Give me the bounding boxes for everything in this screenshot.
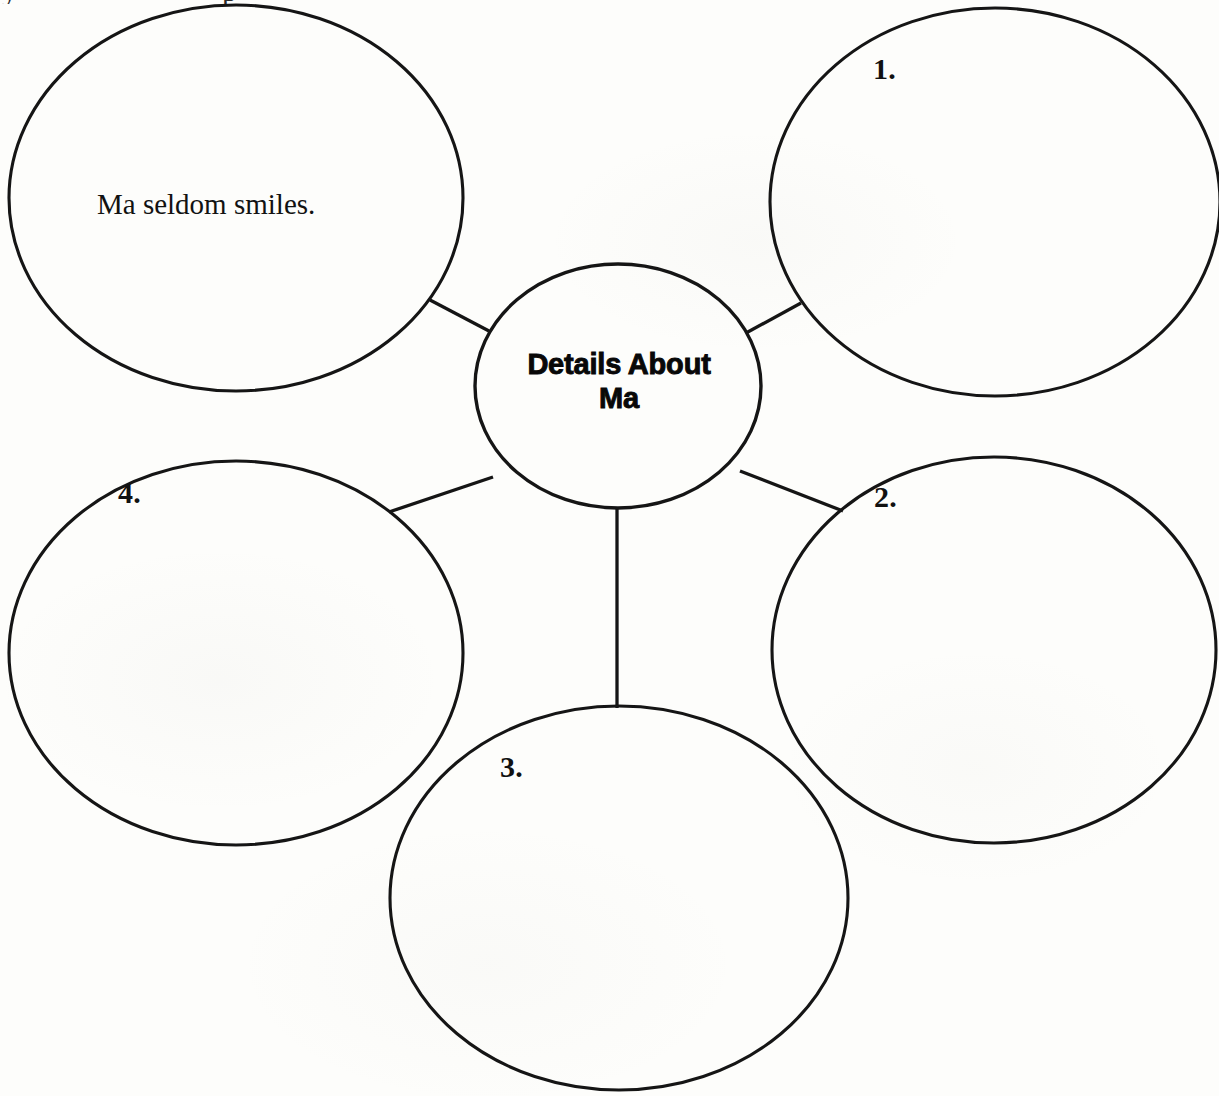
oval-node-1-number: 1. — [873, 54, 896, 84]
oval-node-4-number: 4. — [118, 478, 141, 508]
oval-node-2-number: 2. — [874, 482, 897, 512]
text-layer: Details About Ma Ma seldom smiles. 1. 2.… — [0, 0, 1219, 1096]
oval-node-3-number: 3. — [500, 752, 523, 782]
center-topic-line-2: Ma — [477, 382, 761, 416]
center-topic-line-1: Details About — [477, 348, 761, 382]
oval-topleft-example-text: Ma seldom smiles. — [97, 186, 315, 222]
center-topic-label: Details About Ma — [477, 348, 761, 415]
graphic-organizer-page: y p Details About Ma Ma seldom smiles. — [0, 0, 1219, 1096]
